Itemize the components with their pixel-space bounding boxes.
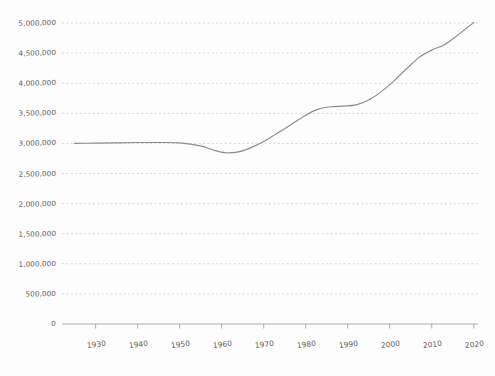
line-chart: 0500,0001,000,0001,500,0002,000,0002,500… — [0, 0, 495, 376]
series-line-population — [75, 22, 474, 152]
gridlines — [62, 23, 478, 294]
x-axis-ticks — [96, 324, 474, 329]
chart-plot-area — [0, 0, 495, 376]
